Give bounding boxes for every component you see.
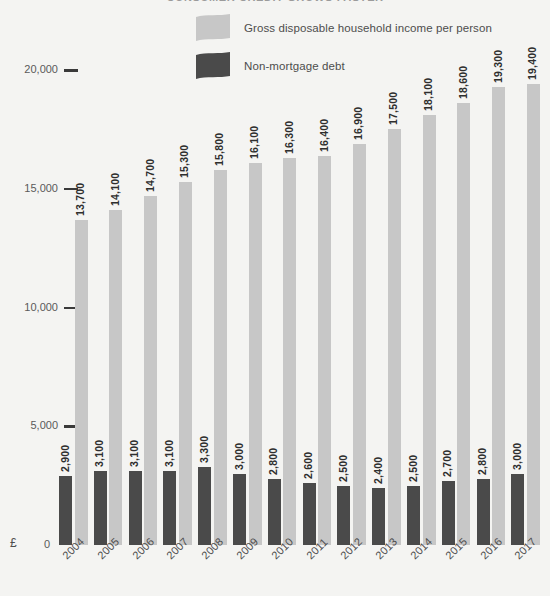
bar-debt[interactable] bbox=[268, 479, 281, 546]
bar-groups: 2,90013,70020043,10014,10020053,10014,70… bbox=[0, 0, 550, 596]
bar-income[interactable] bbox=[109, 210, 122, 545]
bar-debt[interactable] bbox=[303, 483, 316, 545]
bar-value-label: 14,100 bbox=[109, 173, 121, 206]
bar-income[interactable] bbox=[318, 156, 331, 546]
bar-group: 3,10014,100 bbox=[94, 60, 123, 545]
bar-debt[interactable] bbox=[442, 481, 455, 545]
bar-value-label: 18,100 bbox=[422, 78, 434, 111]
bar-income[interactable] bbox=[179, 182, 192, 545]
bar-debt[interactable] bbox=[407, 486, 420, 545]
bar-value-label: 2,700 bbox=[441, 450, 453, 477]
bar-value-label: 15,800 bbox=[213, 132, 225, 165]
bar-value-label: 3,100 bbox=[93, 440, 105, 467]
bar-value-label: 16,400 bbox=[318, 118, 330, 151]
bar-income[interactable] bbox=[527, 84, 540, 545]
bar-debt[interactable] bbox=[129, 471, 142, 545]
bar-value-label: 2,600 bbox=[302, 452, 314, 479]
bar-income[interactable] bbox=[249, 163, 262, 545]
bar-value-label: 16,100 bbox=[248, 125, 260, 158]
bar-group: 2,60016,400 bbox=[303, 60, 332, 545]
bar-income[interactable] bbox=[214, 170, 227, 545]
bar-value-label: 3,100 bbox=[163, 440, 175, 467]
bar-income[interactable] bbox=[144, 196, 157, 545]
bar-debt[interactable] bbox=[233, 474, 246, 545]
bar-group: 3,10014,700 bbox=[129, 60, 158, 545]
bar-income[interactable] bbox=[353, 144, 366, 545]
bar-value-label: 3,000 bbox=[511, 442, 523, 469]
bar-group: 2,40017,500 bbox=[372, 60, 401, 545]
bar-value-label: 2,800 bbox=[476, 447, 488, 474]
bar-income[interactable] bbox=[388, 129, 401, 545]
bar-debt[interactable] bbox=[337, 486, 350, 545]
chart-container: CONSUMER CREDIT GROWS FASTER Gross dispo… bbox=[0, 0, 550, 596]
bar-value-label: 3,100 bbox=[128, 440, 140, 467]
bar-value-label: 13,700 bbox=[74, 182, 86, 215]
bar-debt[interactable] bbox=[59, 476, 72, 545]
bar-value-label: 2,500 bbox=[407, 454, 419, 481]
bar-group: 2,50016,900 bbox=[337, 60, 366, 545]
bar-group: 2,90013,700 bbox=[59, 60, 88, 545]
bar-debt[interactable] bbox=[94, 471, 107, 545]
bar-income[interactable] bbox=[75, 220, 88, 545]
bar-value-label: 3,300 bbox=[198, 435, 210, 462]
bar-group: 2,80019,300 bbox=[477, 60, 506, 545]
bar-debt[interactable] bbox=[372, 488, 385, 545]
plot-area: 5,00010,00015,00020,000 £ 0 2,90013,7002… bbox=[0, 0, 550, 596]
bar-debt[interactable] bbox=[198, 467, 211, 545]
bar-group: 2,50018,100 bbox=[407, 60, 436, 545]
bar-value-label: 3,000 bbox=[233, 442, 245, 469]
bar-value-label: 2,900 bbox=[59, 445, 71, 472]
bar-income[interactable] bbox=[492, 87, 505, 545]
bar-debt[interactable] bbox=[477, 479, 490, 546]
bar-group: 3,00016,100 bbox=[233, 60, 262, 545]
bar-group: 3,10015,300 bbox=[163, 60, 192, 545]
bar-group: 3,00019,400 bbox=[511, 60, 540, 545]
bar-value-label: 2,500 bbox=[337, 454, 349, 481]
bar-value-label: 19,400 bbox=[526, 47, 538, 80]
bar-debt[interactable] bbox=[163, 471, 176, 545]
bar-value-label: 15,300 bbox=[178, 144, 190, 177]
bar-debt[interactable] bbox=[511, 474, 524, 545]
bar-group: 3,30015,800 bbox=[198, 60, 227, 545]
bar-income[interactable] bbox=[283, 158, 296, 545]
bar-group: 2,70018,600 bbox=[442, 60, 471, 545]
bar-value-label: 17,500 bbox=[387, 92, 399, 125]
bar-value-label: 2,400 bbox=[372, 457, 384, 484]
bar-value-label: 2,800 bbox=[267, 447, 279, 474]
bar-value-label: 19,300 bbox=[492, 49, 504, 82]
bar-value-label: 18,600 bbox=[457, 66, 469, 99]
bar-group: 2,80016,300 bbox=[268, 60, 297, 545]
bar-value-label: 16,300 bbox=[283, 121, 295, 154]
bar-value-label: 14,700 bbox=[144, 159, 156, 192]
bar-value-label: 16,900 bbox=[352, 106, 364, 139]
bar-income[interactable] bbox=[423, 115, 436, 545]
bar-income[interactable] bbox=[457, 103, 470, 545]
